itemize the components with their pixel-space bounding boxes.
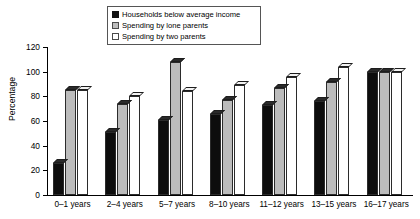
y-tick-label-100: 100: [26, 67, 40, 77]
y-tick-0: [43, 195, 47, 196]
bar-group-5: [262, 47, 314, 195]
bar-households-2: [105, 132, 116, 195]
bar-two-parents-5: [286, 77, 297, 195]
bar-lone-parents-2: [117, 104, 128, 195]
bar-side-face: [140, 188, 145, 192]
bar-front-face: [158, 120, 169, 195]
bar-front-face: [367, 72, 378, 195]
x-tick-label-5: 11–12 years: [259, 200, 303, 209]
bar-households-7: [367, 72, 378, 195]
y-tick-20: [43, 170, 47, 171]
legend-item-two-parents: Spending by two parents: [112, 31, 256, 42]
chart-legend: Households below average income Spending…: [107, 6, 261, 45]
bar-households-5: [262, 105, 273, 195]
bar-front-face: [53, 163, 64, 195]
black-square-swatch-icon: [112, 11, 119, 18]
bar-side-face: [88, 188, 93, 192]
bar-front-face: [222, 100, 233, 195]
bar-front-face: [170, 62, 181, 195]
y-tick-label-40: 40: [31, 141, 40, 151]
bar-two-parents-4: [234, 85, 245, 195]
y-tick-40: [43, 146, 47, 147]
y-tick-label-20: 20: [31, 165, 40, 175]
y-tick-label-80: 80: [31, 91, 40, 101]
bar-group-2: [105, 47, 157, 195]
legend-label-two-parents: Spending by two parents: [122, 32, 206, 41]
bar-group-7: [367, 47, 419, 195]
bar-side-face: [297, 188, 302, 192]
bar-group-1: [53, 47, 105, 195]
y-tick-60: [43, 121, 47, 122]
x-axis-line: [47, 195, 413, 196]
bar-side-face: [349, 188, 354, 192]
plot-area: 020406080100120 0–1 years2–4 years5–7 ye…: [47, 47, 413, 195]
bar-households-1: [53, 163, 64, 195]
x-tick-label-6: 13–15 years: [311, 200, 356, 209]
x-tick-label-7: 16–17 years: [364, 200, 409, 209]
bar-front-face: [65, 90, 76, 195]
y-axis-line: [47, 47, 48, 195]
chart-title-clipped: [0, 0, 420, 2]
x-tick-label-3: 5–7 years: [159, 200, 195, 209]
legend-item-households: Households below average income: [112, 9, 256, 20]
bar-front-face: [77, 90, 88, 195]
bar-front-face: [117, 104, 128, 195]
bar-front-face: [274, 88, 285, 195]
bar-two-parents-2: [129, 96, 140, 195]
bar-side-face: [402, 188, 407, 192]
bar-front-face: [391, 72, 402, 195]
bar-lone-parents-6: [326, 82, 337, 195]
x-tick-label-1: 0–1 years: [55, 200, 91, 209]
bar-front-face: [379, 72, 390, 195]
y-tick-label-0: 0: [35, 190, 40, 200]
bar-lone-parents-4: [222, 100, 233, 195]
bar-group-6: [314, 47, 366, 195]
bar-front-face: [129, 96, 140, 195]
bar-front-face: [105, 132, 116, 195]
bar-front-face: [262, 105, 273, 195]
legend-label-households: Households below average income: [122, 10, 240, 19]
bar-side-face: [193, 188, 198, 192]
bar-side-face: [245, 188, 250, 192]
y-tick-100: [43, 72, 47, 73]
bar-front-face: [286, 77, 297, 195]
bar-two-parents-6: [338, 67, 349, 195]
grey-square-swatch-icon: [112, 22, 119, 29]
bar-group-4: [210, 47, 262, 195]
bar-households-4: [210, 114, 221, 195]
bar-group-3: [158, 47, 210, 195]
y-tick-80: [43, 96, 47, 97]
x-tick-label-4: 8–10 years: [209, 200, 250, 209]
bar-front-face: [338, 67, 349, 195]
y-tick-120: [43, 47, 47, 48]
bar-households-6: [314, 101, 325, 195]
bar-front-face: [234, 85, 245, 195]
bar-front-face: [182, 91, 193, 195]
y-tick-label-60: 60: [31, 116, 40, 126]
x-tick-label-2: 2–4 years: [107, 200, 143, 209]
white-square-swatch-icon: [112, 33, 119, 40]
bar-lone-parents-7: [379, 72, 390, 195]
bar-front-face: [210, 114, 221, 195]
y-axis-title: Percentage: [7, 77, 17, 121]
bar-lone-parents-1: [65, 90, 76, 195]
y-tick-label-120: 120: [26, 42, 40, 52]
bar-front-face: [326, 82, 337, 195]
bar-front-face: [314, 101, 325, 195]
bar-lone-parents-5: [274, 88, 285, 195]
legend-item-lone-parents: Spending by lone parents: [112, 20, 256, 31]
bar-households-3: [158, 120, 169, 195]
bar-chart: Households below average income Spending…: [0, 0, 420, 219]
bar-two-parents-1: [77, 90, 88, 195]
bar-two-parents-3: [182, 91, 193, 195]
bar-lone-parents-3: [170, 62, 181, 195]
legend-label-lone-parents: Spending by lone parents: [122, 21, 208, 30]
bar-two-parents-7: [391, 72, 402, 195]
